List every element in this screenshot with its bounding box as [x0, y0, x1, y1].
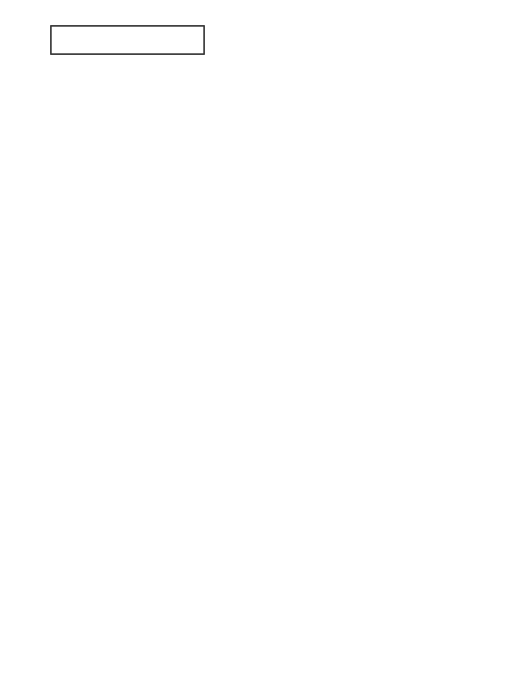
hydrological-pollution-diagram: [0, 0, 532, 687]
atmosphere: [51, 26, 204, 54]
